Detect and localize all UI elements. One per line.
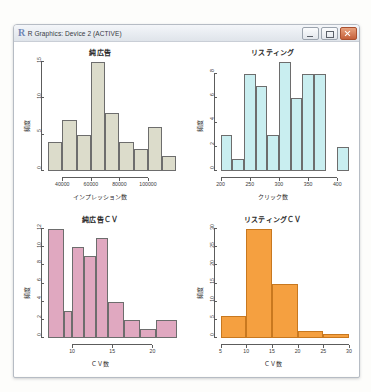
- y-axis-tick-label: 5: [210, 315, 215, 318]
- y-axis-title: 頻度: [194, 120, 203, 132]
- page-background: R R Graphics: Device 2 (ACTIVE) 純広告 頻度 イ…: [0, 0, 371, 392]
- r-graphics-window: R R Graphics: Device 2 (ACTIVE) 純広告 頻度 イ…: [13, 24, 360, 378]
- histogram-bar: [162, 156, 176, 171]
- maximize-button[interactable]: [321, 27, 338, 40]
- y-axis-tick: [41, 319, 44, 320]
- plot-canvas: 純広告 頻度 インプレッション数 05101540000600008000010…: [14, 42, 359, 376]
- y-axis-tick-label: 20: [210, 260, 215, 266]
- x-axis-title: インプレッション数: [14, 192, 187, 201]
- chart-title: 純広告: [14, 47, 187, 57]
- histogram-bar: [91, 62, 105, 171]
- y-axis-title: 頻度: [22, 120, 31, 132]
- histogram-bar: [232, 159, 244, 171]
- window-title: R Graphics: Device 2 (ACTIVE): [28, 30, 302, 37]
- y-axis-tick: [214, 122, 217, 123]
- x-axis-title: ＣＶ数: [14, 359, 187, 368]
- panel-pure-ad-cv: 純広告ＣＶ 頻度 ＣＶ数 024681012101520: [14, 209, 187, 376]
- histogram-bar: [302, 74, 314, 171]
- y-axis-title: 頻度: [194, 287, 203, 299]
- plot-grid: 純広告 頻度 インプレッション数 05101540000600008000010…: [14, 42, 359, 376]
- x-axis-tick-label: 400: [333, 182, 342, 187]
- y-axis-tick-label: 2: [37, 315, 42, 318]
- y-axis-tick-label: 15: [37, 57, 42, 63]
- window-titlebar[interactable]: R R Graphics: Device 2 (ACTIVE): [14, 25, 359, 42]
- y-axis-tick: [41, 134, 44, 135]
- histogram-bar: [244, 74, 256, 171]
- histogram-bar: [77, 135, 91, 171]
- x-axis-tick-label: 10: [69, 349, 75, 354]
- histogram-bar: [134, 149, 148, 171]
- x-axis-tick-label: 300: [275, 182, 284, 187]
- x-axis-line: [221, 344, 350, 345]
- y-axis-tick: [41, 170, 44, 171]
- histogram-bar: [72, 247, 84, 338]
- histogram-bar: [256, 86, 268, 171]
- plot-area: 05101520253051015202530: [221, 229, 350, 338]
- y-axis-tick-label: 30: [210, 224, 215, 230]
- y-axis-tick: [41, 283, 44, 284]
- histogram-bar: [246, 229, 272, 338]
- x-axis-title: クリック数: [187, 192, 360, 201]
- histogram-bar: [314, 74, 326, 171]
- r-logo-icon: R: [18, 28, 25, 38]
- y-axis-tick-label: 6: [37, 278, 42, 281]
- histogram-bar: [62, 120, 76, 171]
- minimize-button[interactable]: [302, 27, 319, 40]
- histogram-bars: [221, 229, 350, 338]
- histogram-bar: [105, 113, 119, 171]
- histogram-bar: [323, 334, 349, 338]
- x-axis-tick-label: 80000: [112, 182, 126, 187]
- histogram-bar: [267, 135, 279, 171]
- close-button[interactable]: [340, 27, 357, 40]
- y-axis-tick-label: 0: [210, 333, 215, 336]
- histogram-bar: [64, 311, 72, 338]
- histogram-bar: [84, 256, 96, 338]
- y-axis-tick-label: 10: [37, 242, 42, 248]
- y-axis-tick: [214, 319, 217, 320]
- x-axis-tick-label: 40000: [55, 182, 69, 187]
- plot-area: 02468200250300350400: [221, 62, 350, 171]
- x-axis-tick-label: 25: [320, 349, 326, 354]
- y-axis-tick: [41, 337, 44, 338]
- x-axis-tick-label: 200: [216, 182, 225, 187]
- y-axis-tick-label: 0: [210, 166, 215, 169]
- panel-listing-clicks: リスティング 頻度 クリック数 02468200250300350400: [187, 42, 360, 209]
- y-axis-tick-label: 10: [210, 296, 215, 302]
- histogram-bar: [156, 320, 176, 338]
- x-axis-tick-label: 15: [269, 349, 275, 354]
- y-axis-tick-label: 0: [37, 333, 42, 336]
- y-axis-tick: [214, 146, 217, 147]
- x-axis-tick-label: 250: [245, 182, 254, 187]
- x-axis-tick-label: 30: [346, 349, 352, 354]
- histogram-bar: [272, 284, 298, 339]
- x-axis-tick-label: 5: [219, 349, 222, 354]
- histogram-bars: [48, 62, 177, 171]
- window-controls: [302, 27, 357, 40]
- histogram-bar: [108, 302, 124, 338]
- y-axis-tick-label: 6: [210, 93, 215, 96]
- x-axis-tick-label: 10: [243, 349, 249, 354]
- x-axis-tick-label: 20: [150, 349, 156, 354]
- x-axis-tick-label: 350: [304, 182, 313, 187]
- histogram-bar: [148, 127, 162, 171]
- y-axis-tick-label: 0: [37, 166, 42, 169]
- x-axis-title: ＣＶ数: [187, 359, 360, 368]
- y-axis-tick: [41, 264, 44, 265]
- histogram-bar: [48, 142, 62, 171]
- y-axis-tick: [214, 337, 217, 338]
- histogram-bars: [221, 62, 350, 171]
- histogram-bar: [140, 329, 156, 338]
- histogram-bar: [337, 147, 349, 171]
- y-axis-tick-label: 8: [210, 69, 215, 72]
- x-axis-tick-label: 20: [295, 349, 301, 354]
- histogram-bar: [291, 98, 303, 171]
- y-axis-line: [41, 62, 42, 171]
- histogram-bar: [48, 229, 64, 338]
- y-axis-tick: [214, 170, 217, 171]
- y-axis-title: 頻度: [22, 287, 31, 299]
- plot-area: 024681012101520: [48, 229, 177, 338]
- y-axis-tick-label: 8: [37, 260, 42, 263]
- y-axis-tick-label: 2: [210, 142, 215, 145]
- panel-pure-ad-impressions: 純広告 頻度 インプレッション数 05101540000600008000010…: [14, 42, 187, 209]
- chart-title: リスティングＣＶ: [187, 214, 360, 224]
